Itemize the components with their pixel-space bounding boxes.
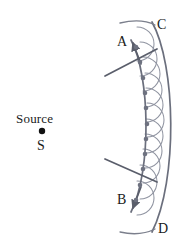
source-dot	[144, 137, 149, 142]
ray-lower	[105, 159, 157, 182]
huygens-diagram: Source S A B C D	[0, 0, 193, 249]
source-dot	[144, 106, 149, 111]
source-dot	[134, 198, 139, 203]
wavefront-top-label: A	[117, 35, 127, 49]
source-point-dot	[39, 128, 45, 134]
source-dot	[145, 122, 150, 127]
source-dot	[141, 76, 146, 81]
source-label: Source	[16, 112, 53, 125]
wavefront-bottom-label: B	[117, 193, 126, 207]
wavelet-arc	[140, 42, 157, 76]
envelope-tail-bottom	[120, 229, 155, 234]
source-dot	[141, 167, 146, 172]
envelope-top-label: C	[157, 18, 166, 32]
wavelet-arc	[147, 103, 164, 137]
source-point-label: S	[37, 139, 45, 153]
wavefront-envelope-arc	[152, 22, 171, 232]
source-dot	[138, 183, 143, 188]
envelope-bottom-label: D	[158, 222, 168, 236]
arrow-to-B	[133, 187, 141, 208]
source-dot	[143, 152, 148, 157]
source-dot	[134, 45, 139, 50]
ray-upper	[105, 49, 157, 76]
source-dot	[138, 60, 143, 65]
envelope-tail-top	[120, 21, 155, 25]
source-dot	[143, 91, 148, 96]
